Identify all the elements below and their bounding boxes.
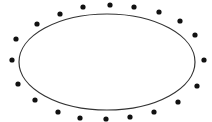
dot-11 xyxy=(127,114,132,119)
dot-14 xyxy=(55,109,60,114)
dot-18 xyxy=(13,36,18,41)
dot-6 xyxy=(192,32,197,37)
dot-17 xyxy=(9,57,14,62)
dot-20 xyxy=(57,11,62,16)
dot-10 xyxy=(151,109,156,114)
dots-ring xyxy=(9,2,206,121)
dot-19 xyxy=(34,21,39,26)
dot-3 xyxy=(131,4,136,9)
dot-9 xyxy=(175,99,180,104)
dot-5 xyxy=(177,18,182,23)
dot-8 xyxy=(194,83,199,88)
ellipse-dots-diagram xyxy=(0,0,212,122)
dot-1 xyxy=(80,4,85,9)
diagram-canvas xyxy=(0,0,212,122)
dot-15 xyxy=(32,97,37,102)
dot-4 xyxy=(156,9,161,14)
ellipse-outline xyxy=(19,14,195,110)
dot-7 xyxy=(201,57,206,62)
dot-13 xyxy=(77,115,82,120)
dot-16 xyxy=(15,81,20,86)
dot-2 xyxy=(107,2,112,7)
dot-12 xyxy=(103,116,108,121)
